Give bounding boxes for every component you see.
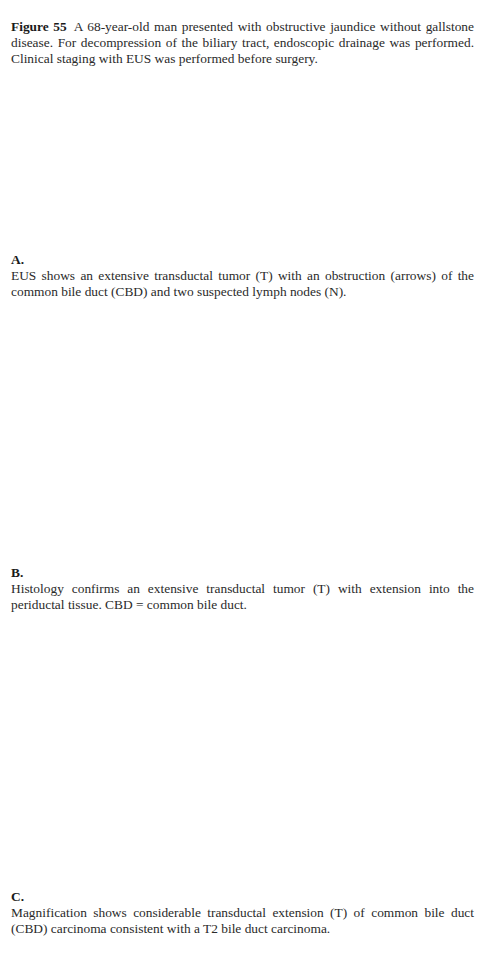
panel-c-text: Magnification shows considerable transdu… <box>11 905 474 937</box>
figure-caption-text: A 68-year-old man presented with obstruc… <box>11 19 474 66</box>
panel-a-text: EUS shows an extensive transductal tumor… <box>11 268 474 300</box>
image-placeholder-a <box>11 100 474 245</box>
image-placeholder-b <box>11 300 474 555</box>
panel-c-caption: C. Magnification shows considerable tran… <box>11 889 474 937</box>
panel-b-text: Histology confirms an extensive transduc… <box>11 581 474 613</box>
figure-label: Figure 55 <box>11 19 67 34</box>
figure-caption: Figure 55A 68-year-old man presented wit… <box>11 19 474 68</box>
panel-b-caption: B. Histology confirms an extensive trans… <box>11 565 474 613</box>
image-placeholder-c <box>11 615 474 880</box>
panel-c-label: C. <box>11 889 474 905</box>
panel-a-caption: A. EUS shows an extensive transductal tu… <box>11 252 474 300</box>
panel-b-label: B. <box>11 565 474 581</box>
panel-a-label: A. <box>11 252 474 268</box>
